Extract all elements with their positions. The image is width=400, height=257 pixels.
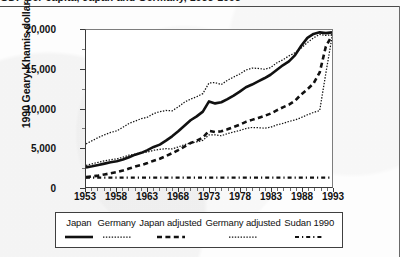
- series-line: [86, 34, 332, 144]
- legend-line-swatch: [156, 234, 186, 240]
- legend-item: Japan: [64, 217, 94, 240]
- x-tick-label: 1958: [105, 191, 127, 202]
- legend-label: Japan: [66, 217, 91, 228]
- y-tick-label: 10,000: [25, 103, 56, 114]
- x-minor-tick: [283, 188, 284, 191]
- legend-line-swatch: [228, 234, 258, 240]
- x-tick-label: 1963: [136, 191, 158, 202]
- x-minor-tick: [91, 188, 92, 191]
- legend-item: Germany: [98, 217, 136, 240]
- legend-line-swatch: [64, 234, 94, 240]
- legend-line-swatch: [102, 234, 132, 240]
- series-lines: [86, 30, 332, 187]
- x-tick-label: 1993: [322, 191, 344, 202]
- y-tick-label: 15,000: [25, 63, 56, 74]
- x-minor-tick: [246, 188, 247, 191]
- x-minor-tick: [184, 188, 185, 191]
- x-minor-tick: [314, 188, 315, 191]
- legend-line-swatch: [294, 234, 324, 240]
- legend-label: Germany: [98, 217, 136, 228]
- page-top-rule: [0, 6, 399, 7]
- x-tick-label: 1988: [291, 191, 313, 202]
- legend-item: Germany adjusted: [205, 217, 280, 240]
- x-minor-tick: [190, 188, 191, 191]
- y-tick-label: 20,000: [25, 24, 56, 35]
- x-minor-tick: [122, 188, 123, 191]
- x-minor-tick: [308, 188, 309, 191]
- y-tick-label: 5,000: [31, 143, 56, 154]
- x-tick-label: 1978: [229, 191, 251, 202]
- x-minor-tick: [277, 188, 278, 191]
- legend-items: JapanGermanyJapan adjustedGermany adjust…: [56, 217, 342, 240]
- series-line: [86, 32, 332, 167]
- x-tick-label: 1953: [74, 191, 96, 202]
- line-chart: 1990 Geary-Khamis dollars 05,00010,00015…: [0, 8, 392, 198]
- plot-area: [85, 29, 333, 188]
- legend-label: Japan adjusted: [139, 217, 201, 228]
- x-minor-tick: [221, 188, 222, 191]
- x-minor-tick: [128, 188, 129, 191]
- x-minor-tick: [97, 188, 98, 191]
- x-minor-tick: [215, 188, 216, 191]
- x-tick-label: 1968: [167, 191, 189, 202]
- x-tick-label: 1983: [260, 191, 282, 202]
- legend-item: Japan adjusted: [139, 217, 201, 240]
- legend-item: Sudan 1990: [284, 217, 334, 240]
- y-tick-label: 0: [50, 183, 56, 194]
- x-minor-tick: [153, 188, 154, 191]
- scanned-page: GDP per capita, Japan and Germany, 1953-…: [0, 0, 400, 257]
- chart-legend: JapanGermanyJapan adjustedGermany adjust…: [55, 212, 343, 248]
- clipped-page-heading: GDP per capita, Japan and Germany, 1953-…: [0, 0, 400, 3]
- x-tick-label: 1973: [198, 191, 220, 202]
- legend-label: Sudan 1990: [284, 217, 334, 228]
- x-minor-tick: [252, 188, 253, 191]
- x-minor-tick: [159, 188, 160, 191]
- legend-label: Germany adjusted: [205, 217, 280, 228]
